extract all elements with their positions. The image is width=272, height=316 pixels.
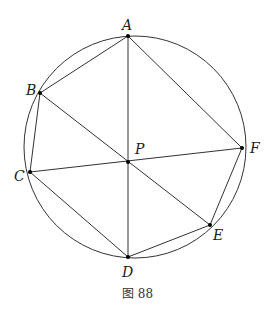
label-D: D	[121, 264, 133, 280]
point-D	[126, 255, 130, 259]
point-B	[38, 91, 42, 95]
segment-CD	[30, 172, 128, 257]
segment-BC	[30, 93, 40, 172]
label-P: P	[134, 141, 145, 157]
figure-caption: 图 88	[122, 287, 153, 301]
segment-FA	[128, 36, 242, 148]
geometry-figure: A B C D E F P 图 88	[0, 0, 272, 316]
label-C: C	[14, 168, 25, 184]
label-A: A	[120, 17, 132, 33]
label-B: B	[25, 82, 36, 98]
point-P	[126, 160, 130, 164]
diagonal-BE	[40, 93, 210, 225]
segment-AB	[40, 36, 128, 93]
point-A	[126, 34, 130, 38]
point-C	[28, 170, 32, 174]
point-F	[240, 146, 244, 150]
label-E: E	[212, 227, 223, 243]
segment-EF	[210, 148, 242, 225]
point-E	[208, 223, 212, 227]
label-F: F	[249, 140, 261, 156]
